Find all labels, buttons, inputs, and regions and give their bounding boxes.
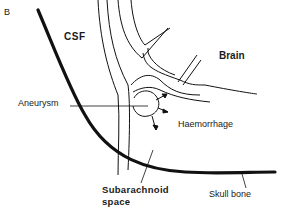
panel-letter: B	[4, 8, 10, 17]
arrowhead-2-icon	[163, 109, 168, 113]
skull-bone-label: Skull bone	[209, 190, 251, 199]
aneurysm-sac	[133, 91, 159, 116]
brain-label: Brain	[219, 51, 245, 61]
subarachnoid-label-line2: space	[102, 197, 130, 207]
haemorrhage-arrows	[152, 94, 168, 130]
vessel-branch-a	[118, 0, 168, 58]
csf-label: CSF	[64, 32, 86, 42]
haemorrhage-label: Haemorrhage	[178, 120, 233, 129]
vessel-branch-b	[131, 0, 170, 45]
brain-vessels	[98, 0, 257, 175]
skull-bone-leader	[242, 174, 246, 188]
subarachnoid-label-line1: Subarachnoid	[102, 185, 169, 195]
arrowhead-3-icon	[153, 125, 158, 130]
aneurysm-label: Aneurysm	[18, 99, 59, 108]
vessel-branch-d	[148, 48, 175, 75]
vessel-branch-f	[183, 60, 201, 85]
